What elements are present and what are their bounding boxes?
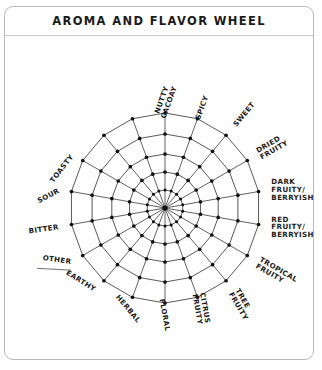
axis-label-red-fruity-berryish[interactable]: REDFRUITY/BERRYISH <box>271 215 313 239</box>
node-nutty-cacoay-r1[interactable] <box>164 189 167 192</box>
spoke-herbal[interactable] <box>133 208 165 297</box>
node-other-r1[interactable] <box>148 216 151 219</box>
node-sweet-r2[interactable] <box>186 179 190 183</box>
axis-label-earthy[interactable]: EARTHY <box>65 268 99 294</box>
node-spicy-r3[interactable] <box>182 155 186 159</box>
node-citrus-fruity-r2[interactable] <box>175 240 179 244</box>
axis-label-tropical-fruity[interactable]: TROPICALFRUITY <box>254 255 299 291</box>
node-dried-fruity-r3[interactable] <box>210 179 214 183</box>
spoke-tree-fruity[interactable] <box>165 208 226 281</box>
axis-label-toasty[interactable]: TOASTY <box>48 152 76 184</box>
node-earthy-r5[interactable] <box>102 279 106 283</box>
axis-label-sweet[interactable]: SWEET <box>231 100 257 128</box>
spoke-sweet[interactable] <box>165 135 226 208</box>
node-unlabeled-b-r5[interactable] <box>131 117 135 121</box>
node-citrus-fruity-r3[interactable] <box>182 257 186 261</box>
node-unlabeled-b-r1[interactable] <box>157 190 160 193</box>
node-earthy-r1[interactable] <box>152 220 155 223</box>
axis-label-citrus-fruity[interactable]: CITRUSFRUITY <box>191 292 213 326</box>
node-tree-fruity-r3[interactable] <box>198 248 202 252</box>
node-floral-r1[interactable] <box>164 225 167 228</box>
node-sweet-r1[interactable] <box>175 193 178 196</box>
node-red-fruity-berryish-r1[interactable] <box>181 210 184 213</box>
node-tropical-fruity-r2[interactable] <box>194 224 198 228</box>
node-herbal-r1[interactable] <box>157 223 160 226</box>
node-nutty-cacoay-r4[interactable] <box>163 132 167 136</box>
node-tree-fruity-r5[interactable] <box>224 279 228 283</box>
node-floral-r3[interactable] <box>163 260 167 264</box>
node-sour-r5[interactable] <box>70 190 74 194</box>
node-toasty-r1[interactable] <box>148 198 151 201</box>
node-tree-fruity-r2[interactable] <box>186 234 190 238</box>
node-earthy-r2[interactable] <box>140 234 144 238</box>
node-other-r5[interactable] <box>81 254 85 258</box>
node-toasty-r5[interactable] <box>81 159 85 163</box>
node-other-r2[interactable] <box>132 224 136 228</box>
spoke-citrus-fruity[interactable] <box>165 208 197 297</box>
node-sweet-r3[interactable] <box>198 165 202 169</box>
axis-label-tree-fruity[interactable]: TREEFRUITY <box>227 287 257 322</box>
node-dark-fruity-berryish-r5[interactable] <box>257 190 261 194</box>
node-tropical-fruity-r5[interactable] <box>245 254 249 258</box>
node-herbal-r2[interactable] <box>151 240 155 244</box>
node-dried-fruity-r2[interactable] <box>194 188 198 192</box>
axis-label-floral[interactable]: FLORAL <box>158 298 173 332</box>
node-unlabeled-a-r3[interactable] <box>128 165 132 169</box>
node-bitter-r2[interactable] <box>128 212 132 216</box>
node-other-r4[interactable] <box>99 243 103 247</box>
node-sweet-r5[interactable] <box>224 133 228 137</box>
node-toasty-r3[interactable] <box>116 179 120 183</box>
axis-label-other[interactable]: OTHER <box>37 252 73 273</box>
node-dried-fruity-r4[interactable] <box>227 169 231 173</box>
spoke-unlabeled-a[interactable] <box>104 135 165 208</box>
node-citrus-fruity-r4[interactable] <box>188 276 192 280</box>
axis-label-bitter[interactable]: BITTER <box>28 222 59 235</box>
node-dark-fruity-berryish-r3[interactable] <box>216 197 220 201</box>
node-dark-fruity-berryish-r1[interactable] <box>181 203 184 206</box>
node-red-fruity-berryish-r4[interactable] <box>236 219 240 223</box>
node-dark-fruity-berryish-r4[interactable] <box>236 193 240 197</box>
node-red-fruity-berryish-r5[interactable] <box>257 223 261 227</box>
node-tropical-fruity-r4[interactable] <box>227 243 231 247</box>
node-spicy-r4[interactable] <box>188 137 192 141</box>
node-red-fruity-berryish-r2[interactable] <box>199 212 203 216</box>
node-other-r3[interactable] <box>116 233 120 237</box>
node-bitter-r5[interactable] <box>70 223 74 227</box>
node-nutty-cacoay-r3[interactable] <box>163 152 167 156</box>
node-unlabeled-a-r4[interactable] <box>116 149 120 153</box>
node-tree-fruity-r4[interactable] <box>211 263 215 267</box>
axis-label-herbal[interactable]: HERBAL <box>114 293 143 325</box>
node-floral-r4[interactable] <box>163 280 167 284</box>
node-toasty-r2[interactable] <box>132 188 136 192</box>
node-floral-r2[interactable] <box>163 242 167 246</box>
node-tropical-fruity-r3[interactable] <box>210 233 214 237</box>
node-dried-fruity-r1[interactable] <box>179 198 182 201</box>
node-unlabeled-a-r1[interactable] <box>152 193 155 196</box>
node-sour-r1[interactable] <box>146 203 149 206</box>
node-spicy-r2[interactable] <box>175 172 179 176</box>
node-bitter-r3[interactable] <box>110 216 114 220</box>
spoke-unlabeled-b[interactable] <box>133 119 165 208</box>
node-unlabeled-b-r2[interactable] <box>151 172 155 176</box>
axis-label-spicy[interactable]: SPICY <box>193 94 210 121</box>
node-spicy-r1[interactable] <box>170 190 173 193</box>
axis-label-sour[interactable]: SOUR <box>36 186 61 205</box>
node-toasty-r4[interactable] <box>99 169 103 173</box>
radar-wheel-svg[interactable]: NUTTYCACOAYSPICYSWEETDRIEDFRUITYDARKFRUI… <box>1 1 322 370</box>
node-tropical-fruity-r1[interactable] <box>179 216 182 219</box>
node-nutty-cacoay-r2[interactable] <box>163 170 167 174</box>
axis-label-nutty-cacoay[interactable]: NUTTYCACOAY <box>152 82 179 120</box>
node-red-fruity-berryish-r3[interactable] <box>216 216 220 220</box>
axis-label-dark-fruity-berryish[interactable]: DARKFRUITY/BERRYISH <box>271 177 313 201</box>
node-unlabeled-a-r5[interactable] <box>102 133 106 137</box>
node-sour-r2[interactable] <box>128 200 132 204</box>
node-dried-fruity-r5[interactable] <box>245 159 249 163</box>
node-herbal-r5[interactable] <box>131 295 135 299</box>
node-earthy-r4[interactable] <box>116 263 120 267</box>
node-unlabeled-b-r4[interactable] <box>138 137 142 141</box>
node-herbal-r4[interactable] <box>138 276 142 280</box>
node-sour-r3[interactable] <box>110 197 114 201</box>
node-citrus-fruity-r1[interactable] <box>170 223 173 226</box>
spoke-spicy[interactable] <box>165 119 197 208</box>
node-earthy-r3[interactable] <box>128 248 132 252</box>
